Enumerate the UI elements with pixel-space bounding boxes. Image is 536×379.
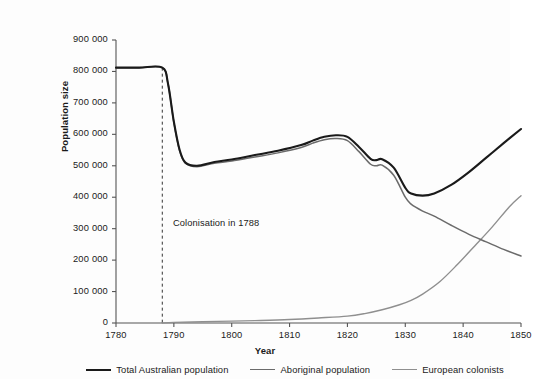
legend-swatch: [392, 369, 417, 370]
legend-item: Total Australian population: [86, 364, 228, 375]
legend-swatch: [250, 369, 275, 370]
series-layer: [116, 66, 521, 323]
colonisation-annotation: Colonisation in 1788: [173, 218, 259, 228]
legend-swatch: [86, 369, 111, 371]
x-axis-title-text: Year: [255, 345, 275, 356]
x-tick-label: 1840: [433, 330, 493, 340]
series-line-european-colonists: [162, 196, 521, 323]
x-tick-label: 1830: [375, 330, 435, 340]
x-tick-label: 1810: [260, 330, 320, 340]
legend-item: European colonists: [392, 364, 504, 375]
y-tick-label: 0: [40, 317, 108, 327]
legend-item: Aboriginal population: [250, 364, 370, 375]
y-tick-label: 300 000: [40, 223, 108, 233]
population-line-chart: Population size Year 0100 000200 000300 …: [40, 16, 470, 363]
x-tick-label: 1780: [86, 330, 146, 340]
legend-label: European colonists: [422, 364, 504, 375]
y-tick-label: 700 000: [40, 97, 108, 107]
y-tick-label: 200 000: [40, 254, 108, 264]
x-tick-label: 1850: [491, 330, 536, 340]
y-tick-label: 800 000: [40, 65, 108, 75]
x-tick-label: 1790: [144, 330, 204, 340]
plot-area: [40, 16, 536, 379]
y-tick-label: 400 000: [40, 191, 108, 201]
x-tick-label: 1800: [202, 330, 262, 340]
y-tick-label: 900 000: [40, 34, 108, 44]
y-tick-label: 600 000: [40, 128, 108, 138]
legend-label: Total Australian population: [116, 364, 228, 375]
y-tick-label: 500 000: [40, 160, 108, 170]
x-axis-title: Year: [40, 345, 536, 356]
chart-legend: Total Australian populationAboriginal po…: [40, 364, 536, 375]
legend-label: Aboriginal population: [280, 364, 370, 375]
axis-layer: [112, 40, 521, 327]
series-line-total-australian-population: [116, 66, 521, 195]
y-tick-label: 100 000: [40, 286, 108, 296]
x-tick-label: 1820: [317, 330, 377, 340]
